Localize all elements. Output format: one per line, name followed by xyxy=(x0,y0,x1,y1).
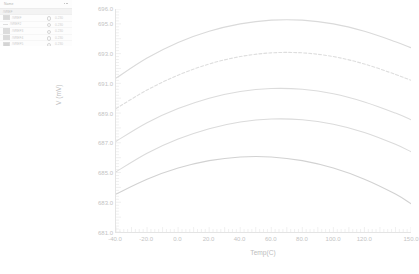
y-tick-label: 683.0 xyxy=(98,200,113,206)
legend-group-label: /VREF xyxy=(3,10,12,14)
x-tick-label: 20.0 xyxy=(203,236,215,242)
x-tick-label: -40.0 xyxy=(108,236,122,242)
trace-value-label: 0.230 xyxy=(55,16,63,20)
trace-name-label: /VREF xyxy=(12,16,21,20)
x-tick-label: -20.0 xyxy=(139,236,153,242)
x-axis-tick-labels: -40.0-20.00.020.040.060.080.0100.0120.01… xyxy=(115,236,411,248)
legend-header: Name xyxy=(0,0,72,9)
trace-color-swatch xyxy=(3,24,8,25)
plot-area[interactable] xyxy=(115,9,411,233)
x-axis-title: Temp(C) xyxy=(115,249,411,256)
trace-value-label: 0.230 xyxy=(55,29,63,33)
legend-trace-row[interactable]: /VREF30.230 xyxy=(0,28,72,35)
y-axis-title: V (mV) xyxy=(55,84,62,105)
legend-trace-row[interactable]: /VREF20.230 xyxy=(0,22,72,29)
x-tick-label: 60.0 xyxy=(265,236,277,242)
waveform-curves xyxy=(116,9,411,232)
trace-marker-icon[interactable] xyxy=(47,16,51,20)
trace-value-label: 0.230 xyxy=(55,42,63,46)
trace-value-label: 0.230 xyxy=(55,36,63,40)
y-tick-label: 689.0 xyxy=(98,111,113,117)
trace-legend-panel[interactable]: Name /VREF /VREF0.230/VREF20.230/VREF30.… xyxy=(0,0,72,46)
x-tick-label: 80.0 xyxy=(296,236,308,242)
trace-name-label: /VREF3 xyxy=(12,29,23,33)
legend-trace-row[interactable]: /VREF40.230 xyxy=(0,35,72,42)
y-tick-label: 691.0 xyxy=(98,81,113,87)
trace-marker-icon[interactable] xyxy=(47,36,51,40)
x-tick-label: 120.0 xyxy=(357,236,372,242)
legend-trace-row[interactable]: /VREF0.230 xyxy=(0,15,72,22)
legend-trace-row[interactable]: /VREF50.230 xyxy=(0,41,72,46)
trace-name-label: /VREF5 xyxy=(12,42,23,46)
trace-marker-icon[interactable] xyxy=(47,43,51,46)
trace-color-swatch xyxy=(3,15,10,20)
x-tick-label: 150.0 xyxy=(403,236,418,242)
y-tick-label: 695.0 xyxy=(98,21,113,27)
trace-marker-icon[interactable] xyxy=(47,30,51,34)
legend-trace-list: /VREF0.230/VREF20.230/VREF30.230/VREF40.… xyxy=(0,15,72,46)
trace-color-swatch xyxy=(3,35,10,40)
trace-color-swatch xyxy=(3,42,10,46)
y-tick-label: 685.0 xyxy=(98,170,113,176)
x-tick-label: 100.0 xyxy=(326,236,341,242)
y-tick-label: 687.0 xyxy=(98,140,113,146)
y-tick-label: 693.0 xyxy=(98,51,113,57)
trace-value-label: 0.230 xyxy=(55,23,63,27)
waveform-curve xyxy=(116,20,411,78)
waveform-curve xyxy=(116,119,411,172)
trace-name-label: /VREF2 xyxy=(10,22,21,26)
trace-color-swatch xyxy=(3,28,10,33)
trace-name-label: /VREF4 xyxy=(12,36,23,40)
trace-marker-icon[interactable] xyxy=(47,23,51,27)
x-tick-label: 0.0 xyxy=(173,236,181,242)
kebab-menu-icon[interactable] xyxy=(64,3,68,4)
legend-header-label: Name xyxy=(4,2,13,6)
y-tick-label: 696.0 xyxy=(98,6,113,12)
y-axis-tick-labels: 681.0683.0685.0687.0689.0691.0693.0695.0… xyxy=(80,9,113,233)
x-tick-label: 40.0 xyxy=(234,236,246,242)
waveform-curve xyxy=(116,156,411,203)
waveform-curve xyxy=(116,52,411,108)
